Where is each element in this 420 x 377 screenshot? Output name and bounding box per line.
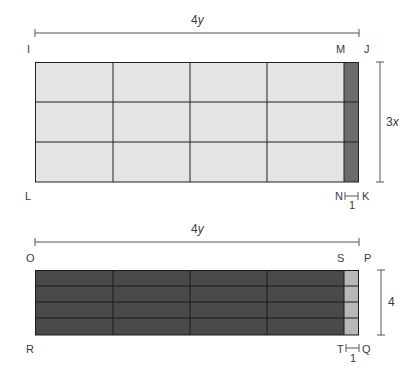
corner-label-m: M: [336, 44, 345, 55]
diagram-canvas: [0, 0, 420, 377]
bottom-width-label: 4y: [191, 223, 204, 235]
top-height-label: 3x: [386, 116, 399, 128]
corner-label-i: I: [27, 44, 30, 55]
bottom-height-dimension: [377, 270, 385, 335]
top-strip: [344, 62, 359, 182]
corner-label-p: P: [364, 253, 371, 264]
top-strip-width-label: 1: [349, 200, 355, 211]
bottom-strip-width-label: 1: [350, 353, 356, 364]
corner-label-r: R: [26, 344, 34, 355]
bottom-width-variable: y: [198, 222, 204, 236]
corner-label-l: L: [25, 191, 31, 202]
top-width-dimension: [35, 29, 359, 37]
bottom-width-dimension: [35, 238, 359, 246]
corner-label-k: K: [362, 191, 369, 202]
bottom-rectangle: [35, 270, 359, 335]
top-width-variable: y: [198, 13, 204, 27]
top-width-label: 4y: [191, 14, 204, 26]
corner-label-j: J: [364, 44, 370, 55]
bottom-height-label: 4: [388, 296, 395, 308]
top-height-dimension: [376, 62, 384, 182]
top-height-coefficient: 3: [386, 115, 393, 129]
corner-label-q: Q: [362, 344, 371, 355]
corner-label-t: T: [337, 344, 344, 355]
top-width-coefficient: 4: [191, 13, 198, 27]
corner-label-o: O: [26, 253, 35, 264]
bottom-strip-dimension: [346, 344, 359, 352]
corner-label-s: S: [337, 253, 344, 264]
bottom-width-coefficient: 4: [191, 222, 198, 236]
corner-label-n: N: [335, 191, 343, 202]
top-height-variable: x: [393, 115, 399, 129]
top-rectangle: [35, 62, 359, 182]
